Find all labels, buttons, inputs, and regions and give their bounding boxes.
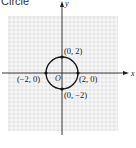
label-bottom: (0, −2) [64, 90, 87, 100]
label-right: (2, 0) [79, 74, 98, 84]
x-axis-label: x [130, 69, 135, 78]
point-left [44, 71, 47, 74]
y-axis-arrow-icon [60, 1, 64, 7]
label-left: (−2, 0) [17, 74, 40, 84]
label-origin: O [55, 74, 61, 83]
x-axis-arrow-icon [123, 71, 129, 75]
label-top: (0, 2) [64, 46, 83, 56]
circle-chart: (0, 2) (−2, 0) (2, 0) (0, −2) O x y [0, 0, 136, 148]
y-axis-label: y [64, 0, 69, 8]
